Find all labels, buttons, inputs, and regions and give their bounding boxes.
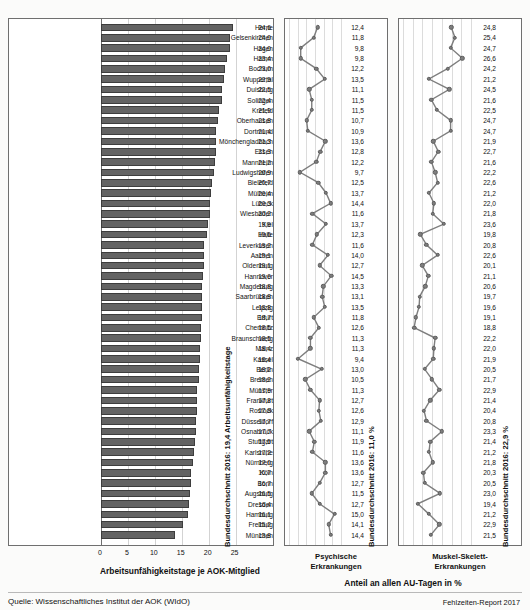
dot-row: 14,4: [285, 198, 387, 209]
bar: [101, 334, 201, 342]
data-point-dot: [316, 180, 320, 184]
data-point-dot: [298, 170, 302, 174]
dot-value-label: 20,5: [475, 364, 496, 375]
data-point-dot: [422, 408, 426, 412]
dot-value-label: 21,2: [475, 188, 496, 199]
bar: [101, 24, 233, 32]
dot-value-label: 20,1: [475, 260, 496, 271]
bar-value-label: 20,7: [249, 177, 271, 188]
dot-value-label: 11,6: [343, 447, 364, 458]
bar-row: Hamm23,4: [9, 53, 273, 64]
bar: [101, 531, 175, 539]
dot-row: 12,3: [285, 229, 387, 240]
data-point-dot: [460, 56, 464, 60]
data-point-dot: [427, 191, 431, 195]
bar: [101, 158, 215, 166]
data-point-dot: [310, 211, 314, 215]
dot-value-label: 11,3: [343, 385, 364, 396]
data-point-dot: [417, 294, 421, 298]
dot-row: 11,5: [285, 95, 387, 106]
dot-value-label: 21,4: [475, 395, 496, 406]
data-point-dot: [323, 470, 327, 474]
data-point-dot: [422, 481, 426, 485]
dot-row: 11,5: [285, 105, 387, 116]
dot-value-label: 12,6: [343, 322, 364, 333]
dot-row: 12,7: [285, 260, 387, 271]
dot-row: 24,5: [399, 84, 521, 95]
data-point-dot: [317, 398, 321, 402]
bar-value-label: 18,8: [249, 302, 271, 313]
bar-value-label: 18,4: [249, 354, 271, 365]
data-point-dot: [445, 66, 449, 70]
bar-row: Halle19,6: [9, 229, 273, 240]
dot-value-label: 13,5: [343, 74, 364, 85]
dot-row: 11,8: [285, 32, 387, 43]
dot-value-label: 14,5: [343, 271, 364, 282]
dot-value-label: 9,4: [343, 354, 364, 365]
data-point-dot: [430, 211, 434, 215]
data-point-dot: [303, 377, 307, 381]
data-point-dot: [433, 170, 437, 174]
dot-value-label: 10,9: [343, 126, 364, 137]
data-point-dot: [428, 398, 432, 402]
dot-row: 11,3: [285, 333, 387, 344]
data-point-dot: [315, 25, 319, 29]
bar-value-label: 17,8: [249, 395, 271, 406]
dot-row: 23,6: [399, 219, 521, 230]
dot-row: 18,8: [399, 322, 521, 333]
bar-value-label: 19,1: [249, 260, 271, 271]
data-point-dot: [308, 346, 312, 350]
dot-value-label: 9,8: [343, 43, 364, 54]
bar: [101, 179, 212, 187]
dot-value-label: 21,7: [475, 374, 496, 385]
dot-row: 11,6: [285, 240, 387, 251]
bar-tick-label: 25: [231, 549, 239, 556]
bar-value-label: 17,0: [249, 457, 271, 468]
bar-tick-label: 10: [150, 549, 158, 556]
data-point-dot: [315, 232, 319, 236]
bar: [101, 314, 202, 322]
dot-value-label: 9,7: [343, 167, 364, 178]
dot-row: 22,6: [399, 250, 521, 261]
bar-row: Hamburg16,1: [9, 509, 273, 520]
bar-row: Augsburg16,5: [9, 488, 273, 499]
data-point-dot: [416, 502, 420, 506]
dot-value-label: 13,3: [343, 281, 364, 292]
dot-row: 24,7: [399, 43, 521, 54]
bundesdurchschnitt-caption-psychische: Bundesdurchschnitt 2016: 11,0 %: [367, 426, 376, 547]
source-note: Quelle: Wissenschaftliches Institut der …: [8, 597, 190, 606]
bundesdurchschnitt-caption-bars: Bundesdurchschnitt 2016: 19,4 Arbeitsunf…: [223, 346, 232, 547]
dot-value-label: 20,3: [475, 467, 496, 478]
bar-row: Leipzig18,8: [9, 302, 273, 313]
bar-tick-label: 0: [98, 549, 102, 556]
data-point-dot: [307, 87, 311, 91]
dot-value-label: 14,1: [343, 519, 364, 530]
bar-rows: Herne24,6Gelsenkirchen24,0Hagen24,0Hamm2…: [9, 19, 273, 545]
bar: [101, 438, 195, 446]
dot-value-label: 21,8: [475, 457, 496, 468]
dot-value-label: 13,5: [343, 302, 364, 313]
data-point-dot: [431, 357, 435, 361]
bar-value-label: 23,4: [249, 53, 271, 64]
dot-value-label: 26,6: [475, 53, 496, 64]
bar-value-label: 18,2: [249, 364, 271, 375]
bar-value-label: 24,0: [249, 32, 271, 43]
bar-value-label: 21,4: [249, 126, 271, 137]
dot-row: 13,5: [285, 302, 387, 313]
data-point-dot: [308, 388, 312, 392]
dot-row: 11,1: [285, 84, 387, 95]
bar: [101, 428, 196, 436]
data-point-dot: [319, 367, 323, 371]
shared-axis-title: Anteil an allen AU-Tagen in %: [284, 578, 522, 588]
dot-row: 25,4: [399, 32, 521, 43]
data-point-dot: [417, 305, 421, 309]
bar-value-label: 23,0: [249, 63, 271, 74]
dot-value-label: 11,9: [343, 436, 364, 447]
dot-value-label: 12,7: [343, 499, 364, 510]
dot-row: 20,8: [399, 240, 521, 251]
bar-row: Oberhausen21,8: [9, 115, 273, 126]
data-point-dot: [324, 191, 328, 195]
dot-row: 24,2: [399, 63, 521, 74]
data-point-dot: [329, 274, 333, 278]
bar-row: Köln16,7: [9, 467, 273, 478]
